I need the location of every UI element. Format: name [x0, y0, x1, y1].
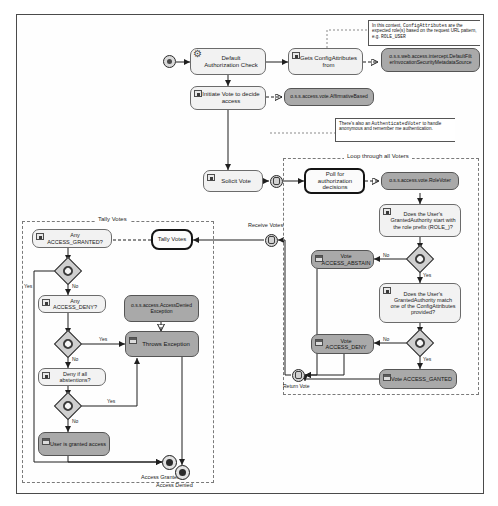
edge-label-no-1: No: [72, 283, 78, 289]
node-default-authorization-check-label: Default Authorization Check: [204, 55, 258, 68]
node-any-access-granted-label: Any ACCESS_GRANTED?: [42, 232, 108, 244]
note-config-attributes-code1: ConfigAttributes: [403, 23, 447, 28]
edge-label-no-3: No: [72, 418, 78, 424]
note-authenticated-voter: There's also an AuthenticatedVoter to ha…: [335, 118, 455, 142]
region-loop-label: Loop through all Voters: [344, 153, 412, 159]
end-node-access-denied: [175, 465, 190, 480]
connector-return-vote: [292, 369, 305, 382]
node-role-voter[interactable]: o.s.s.access.vote.RoleVoter: [381, 172, 459, 190]
node-access-denied-exception-label: o.s.s.access.AccessDenied Exception: [131, 303, 192, 314]
node-role-prefix-check-label: Does the User's GrantedAuthority start w…: [390, 211, 455, 229]
edge-label-no-role: No: [383, 252, 389, 258]
node-any-access-granted[interactable]: Any ACCESS_GRANTED?: [32, 229, 112, 248]
note-authenticated-voter-code1: AuthenticatedVoter: [372, 121, 422, 126]
node-gets-config-attributes[interactable]: Gets ConfigAttributes from: [288, 48, 363, 75]
node-gets-config-attributes-label: Gets ConfigAttributes from: [300, 55, 357, 68]
edge-label-access-granted: Access Granted: [141, 474, 180, 480]
edge-label-receive-votes: Receive Votes: [248, 222, 283, 228]
node-vote-granted-label: Vote ACCESS_GANTED: [391, 376, 452, 382]
document-icon: [42, 438, 50, 445]
subprocess-icon: [194, 90, 202, 97]
node-throws-exception[interactable]: Throws Exception: [125, 331, 199, 357]
edge-label-access-denied: Access Denied: [156, 482, 193, 488]
node-initiate-vote[interactable]: Initiate Vote to decide access: [190, 86, 266, 110]
edge-label-yes-match: Yes: [423, 356, 431, 362]
edge-label-return-vote: Return Vote: [283, 383, 309, 389]
node-initiate-vote-label: Initiate Vote to decide access: [202, 91, 259, 104]
subprocess-icon: [42, 299, 50, 306]
node-attribute-match-check[interactable]: Does the User's GrantedAuthority match o…: [379, 283, 461, 323]
subprocess-icon: [383, 208, 391, 215]
node-poll-for-decisions[interactable]: Poll for authorization decisions: [304, 168, 365, 194]
node-tally-votes-label: Tally Votes: [158, 236, 187, 243]
subprocess-icon: [36, 233, 44, 240]
document-icon: [129, 337, 137, 344]
document-icon: [315, 255, 323, 262]
node-user-granted-access-label: User is granted access: [50, 441, 106, 447]
note-config-attributes-code2: ROLE_USER: [381, 34, 406, 39]
edge-label-yes-1: Yes: [24, 283, 32, 289]
edge-label-no-2: No: [72, 356, 78, 362]
node-solicit-vote[interactable]: Solicit Vote: [203, 170, 263, 192]
edge-label-yes-role: Yes: [423, 272, 431, 278]
edge-label-yes-2: Yes: [99, 336, 107, 342]
subprocess-icon: [383, 287, 391, 294]
node-tally-votes[interactable]: Tally Votes: [151, 229, 193, 250]
connector-solicit-vote: [270, 175, 283, 188]
region-tally-label: Tally Votes: [95, 216, 130, 222]
note-authenticated-voter-p1: There's also an: [339, 121, 372, 126]
subprocess-icon: [42, 372, 50, 379]
edge-label-yes-3: Yes: [107, 398, 115, 404]
node-vote-abstain-label: Vote ACCESS_ABSTAIN: [322, 253, 371, 265]
node-deny-if-abstentions-label: Deny if all abstentions?: [48, 371, 102, 383]
node-role-voter-label: o.s.s.access.vote.RoleVoter: [389, 178, 451, 184]
node-default-authorization-check[interactable]: Default Authorization Check: [190, 48, 266, 75]
node-poll-for-decisions-label: Poll for authorization decisions: [310, 171, 360, 191]
node-deny-if-abstentions[interactable]: Deny if all abstentions?: [38, 368, 106, 386]
start-node: [163, 55, 176, 68]
note-config-attributes-p1: In this context,: [372, 23, 403, 28]
process-gear-icon: [194, 52, 204, 62]
end-node-access-granted: [162, 455, 177, 470]
node-vote-deny[interactable]: Vote ACCESS_DENY: [311, 334, 374, 354]
node-metadata-source[interactable]: o.s.s.web.access.intercept.DefaultFilt e…: [381, 48, 480, 72]
node-vote-abstain[interactable]: Vote ACCESS_ABSTAIN: [311, 250, 374, 269]
node-any-access-deny[interactable]: Any ACCESS_DENY?: [38, 295, 106, 313]
node-throws-exception-label: Throws Exception: [142, 341, 190, 348]
node-access-denied-exception[interactable]: o.s.s.access.AccessDenied Exception: [124, 295, 199, 322]
edge-label-no-match: No: [383, 336, 389, 342]
node-vote-granted[interactable]: Vote ACCESS_GANTED: [379, 369, 457, 389]
node-any-access-deny-label: Any ACCESS_DENY?: [48, 298, 102, 310]
subprocess-icon: [207, 174, 215, 181]
node-solicit-vote-label: Solicit Vote: [221, 178, 251, 185]
node-vote-deny-label: Vote ACCESS_DENY: [322, 338, 370, 350]
subprocess-icon: [292, 52, 300, 59]
node-attribute-match-check-label: Does the User's GrantedAuthority match o…: [390, 291, 455, 316]
diagram-canvas: Loop through all Voters Tally Votes Defa…: [0, 0, 498, 506]
node-affirmative-based[interactable]: o.s.s.access.vote.AffirmativeBased: [284, 88, 374, 106]
note-config-attributes: In this context, ConfigAttributes are th…: [368, 20, 480, 46]
node-role-prefix-check[interactable]: Does the User's GrantedAuthority start w…: [379, 204, 461, 237]
node-affirmative-based-label: o.s.s.access.vote.AffirmativeBased: [290, 94, 367, 100]
document-icon: [383, 374, 391, 381]
connector-receive-votes: [265, 234, 278, 247]
node-user-granted-access[interactable]: User is granted access: [38, 432, 110, 456]
document-icon: [315, 339, 323, 346]
node-metadata-source-label: o.s.s.web.access.intercept.DefaultFilt e…: [389, 54, 472, 65]
